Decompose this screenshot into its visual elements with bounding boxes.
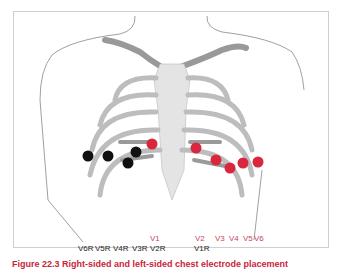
electrode-v4r	[131, 147, 142, 158]
electrode-v5r	[103, 151, 114, 162]
clavicle-right	[183, 46, 246, 66]
label-v5: V5	[243, 235, 253, 243]
figure-caption: Figure 22.3 Right-sided and left-sided c…	[12, 259, 288, 269]
electrode-v5	[238, 158, 249, 169]
label-v1r: V1R	[194, 245, 210, 253]
label-v2r: V2R	[150, 245, 166, 253]
label-v4: V4	[229, 235, 239, 243]
electrode-v6	[253, 157, 264, 168]
electrode-v2	[191, 143, 202, 154]
label-v6r: V6R	[78, 245, 94, 253]
electrode-v4	[225, 163, 236, 174]
label-v3: V3	[215, 235, 225, 243]
body-outline-left	[40, 16, 135, 242]
label-v2: V2	[195, 235, 205, 243]
label-v6: V6	[254, 235, 264, 243]
label-v3r: V3R	[132, 245, 148, 253]
electrode-v3r	[123, 158, 134, 169]
electrode-v6r	[83, 151, 94, 162]
label-v4r: V4R	[113, 245, 129, 253]
electrode-v1	[147, 139, 158, 150]
clavicle-left	[105, 40, 160, 66]
label-v5r: V5R	[95, 245, 111, 253]
label-v1: V1	[150, 235, 160, 243]
electrode-v3	[211, 155, 222, 166]
